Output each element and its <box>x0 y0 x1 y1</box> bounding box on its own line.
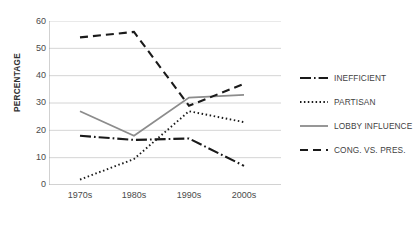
y-tick-60: 60 <box>22 17 46 26</box>
series-line-cong-vs-pres <box>80 32 244 106</box>
x-tick-1970s: 1970s <box>57 190 103 200</box>
x-tick-1990s: 1990s <box>166 190 212 200</box>
legend-swatch-dashed-icon <box>300 145 328 155</box>
legend-swatch-solid-icon <box>300 121 328 131</box>
y-tick-0: 0 <box>22 180 46 189</box>
series-line-inefficient <box>80 136 244 166</box>
plot-svg <box>49 21 281 185</box>
y-tick-40: 40 <box>22 71 46 80</box>
y-tick-50: 50 <box>22 44 46 53</box>
legend-label-inefficient: INEFFICIENT <box>334 73 386 83</box>
legend-swatch-dotted-icon <box>300 97 328 107</box>
y-axis-tick-labels: 60 50 40 30 20 10 0 <box>20 0 46 225</box>
x-tick-2000s: 2000s <box>221 190 267 200</box>
series-line-lobby-influence <box>80 95 244 136</box>
x-tick-1980s: 1980s <box>111 190 157 200</box>
line-chart: PERCENTAGE 60 50 40 30 20 10 0 1970s <box>0 0 416 225</box>
x-axis-tick-labels: 1970s 1980s 1990s 2000s <box>49 190 281 208</box>
legend-item-inefficient: INEFFICIENT <box>300 66 416 90</box>
legend-label-cong-vs-pres: CONG. VS. PRES. <box>334 145 406 155</box>
y-tick-30: 30 <box>22 98 46 107</box>
legend-swatch-dash-dot-icon <box>300 73 328 83</box>
gridlines <box>49 21 281 158</box>
legend-label-partisan: PARTISAN <box>334 97 376 107</box>
legend-item-cong-vs-pres: CONG. VS. PRES. <box>300 138 416 162</box>
y-tick-10: 10 <box>22 153 46 162</box>
chart-legend: INEFFICIENT PARTISAN LOBBY INFLUENCE <box>300 66 416 162</box>
y-tick-20: 20 <box>22 126 46 135</box>
legend-item-lobby-influence: LOBBY INFLUENCE <box>300 114 416 138</box>
legend-item-partisan: PARTISAN <box>300 90 416 114</box>
legend-label-lobby-influence: LOBBY INFLUENCE <box>334 121 412 131</box>
plot-area <box>49 21 281 185</box>
